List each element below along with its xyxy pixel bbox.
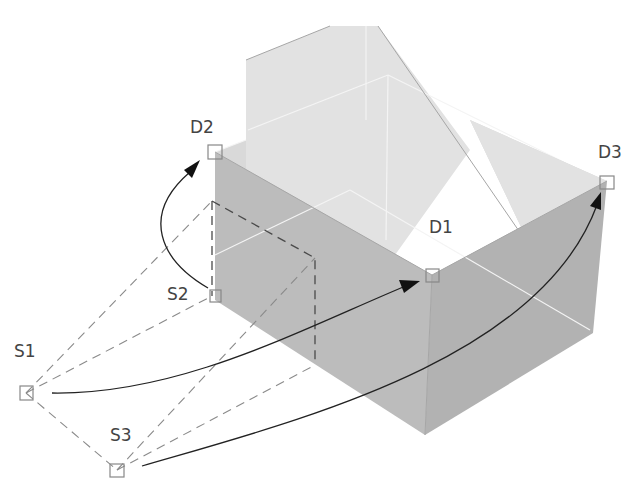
label-d1: D1 bbox=[429, 217, 453, 237]
mapping-arrow-s2-d2 bbox=[161, 160, 208, 288]
label-d2: D2 bbox=[190, 117, 214, 137]
alignment-diagram: D2 D1 D3 S2 S1 S3 bbox=[0, 0, 629, 484]
label-s1: S1 bbox=[14, 341, 36, 361]
label-s2: S2 bbox=[167, 284, 189, 304]
label-d3: D3 bbox=[598, 142, 622, 162]
label-s3: S3 bbox=[110, 425, 132, 445]
